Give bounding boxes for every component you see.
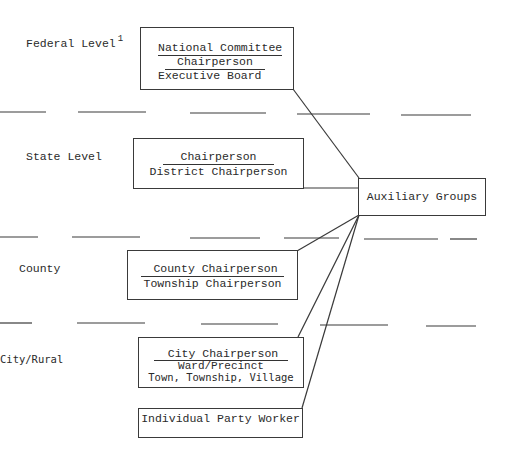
individual-party-worker-box: Individual Party Worker (138, 408, 303, 438)
state-chairperson-box: Chairperson District Chairperson (133, 138, 304, 189)
individual-line-1: Individual Party Worker (139, 413, 302, 425)
federal-committee-box: National Committee Chairperson Executive… (140, 27, 294, 90)
level-separator-3 (0, 323, 476, 326)
federal-line-3: Executive Board (141, 70, 293, 82)
county-chairperson-box: County Chairperson Township Chairperson (127, 250, 298, 300)
level-label-city-rural: City/Rural (0, 353, 63, 365)
level-label-county: County (19, 262, 60, 275)
level-separator-2 (0, 237, 477, 239)
auxiliary-groups-box: Auxiliary Groups (358, 178, 486, 216)
footnote-marker: 1 (118, 34, 123, 44)
state-line-2: District Chairperson (134, 166, 303, 178)
city-line-3: Town, Township, Village (139, 372, 303, 383)
level-separator-1 (0, 112, 471, 115)
level-label-federal: Federal Level1 (26, 34, 123, 50)
county-line-2: Township Chairperson (128, 278, 297, 290)
auxiliary-line-1: Auxiliary Groups (359, 191, 485, 203)
federal-line-1: National Committee (158, 42, 282, 56)
federal-line-2: Chairperson (165, 56, 265, 70)
state-line-1: Chairperson (163, 151, 275, 165)
level-label-state: State Level (26, 150, 102, 163)
county-line-1: County Chairperson (141, 263, 283, 277)
city-chairperson-box: City Chairperson Ward/Precinct Town, Tow… (138, 337, 304, 388)
